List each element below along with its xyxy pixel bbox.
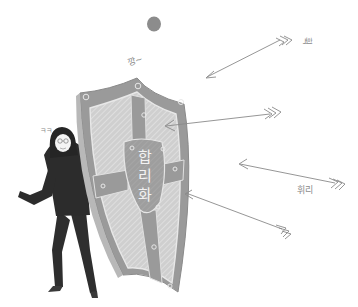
- illustration-svg: [0, 0, 358, 307]
- arrows: [165, 36, 345, 239]
- sfx-whoosh-top: 휙: [302, 37, 311, 45]
- shield: [76, 78, 189, 292]
- arrow-right-icon: [239, 159, 345, 190]
- ball-icon: [147, 17, 161, 32]
- sfx-giggle: ㅋㅋ: [40, 128, 51, 135]
- shield-label: 합 리 화: [135, 148, 155, 205]
- arrow-low-icon: [185, 190, 291, 239]
- illustration-canvas: 합 리 화 깡~ 휙 휘리 ㅋㅋ: [0, 0, 358, 307]
- sfx-whirl-right: 휘리: [297, 186, 312, 195]
- arrow-top-icon: [206, 36, 292, 78]
